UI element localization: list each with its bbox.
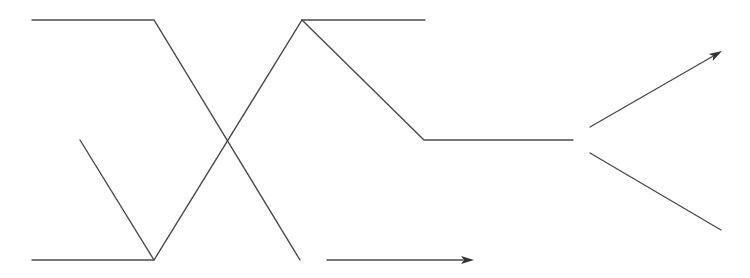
lower-path-line <box>32 20 425 260</box>
bottom-arrow <box>327 256 474 264</box>
upper-right-arrow-shaft <box>590 56 712 127</box>
upper-right-arrow <box>590 51 722 127</box>
lower-right-branch-line <box>590 153 721 230</box>
paths-layer <box>32 20 721 260</box>
diagram-canvas <box>0 0 750 278</box>
upper-path-line <box>32 20 300 260</box>
arrows-layer <box>327 51 722 264</box>
left-short-diagonal-line <box>80 140 154 260</box>
descending-to-middle-line <box>302 20 573 140</box>
line-diagram <box>0 0 750 278</box>
arrowhead-icon <box>709 51 722 61</box>
